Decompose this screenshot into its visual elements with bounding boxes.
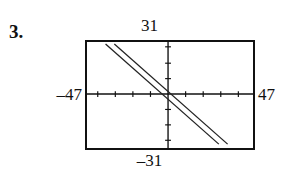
x-min-label: –47	[57, 86, 83, 103]
calculator-screen	[85, 40, 255, 150]
plot-svg	[87, 42, 253, 148]
y-max-label: 31	[0, 17, 295, 34]
y-min-label: –31	[0, 152, 295, 169]
plot-area	[87, 42, 253, 148]
x-max-label: 47	[258, 86, 275, 103]
